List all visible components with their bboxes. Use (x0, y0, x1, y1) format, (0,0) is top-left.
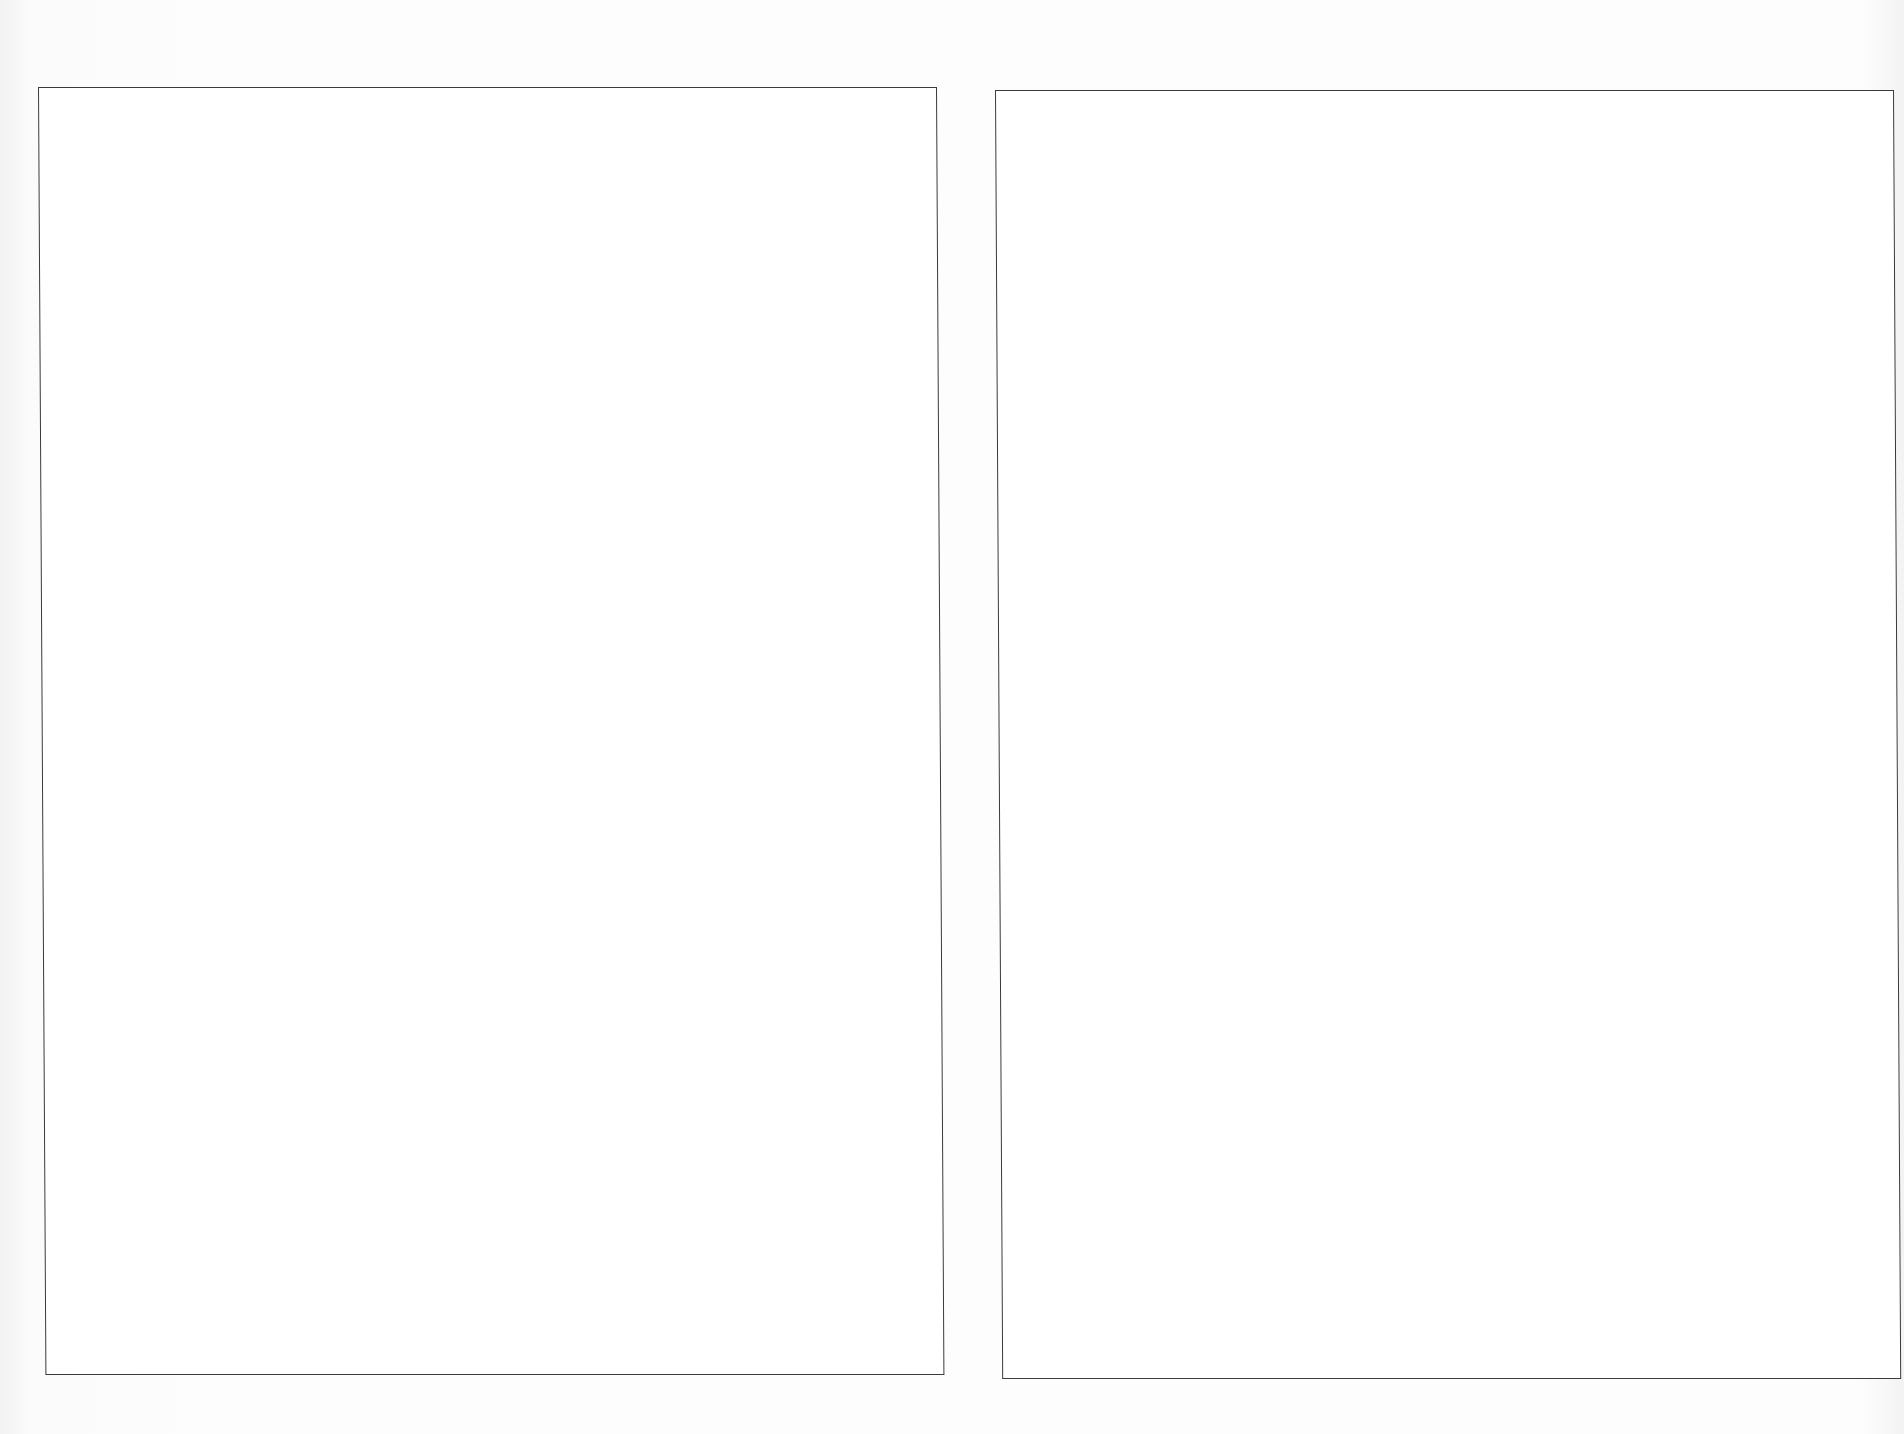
scanned-page (0, 0, 1904, 1434)
left-figure-frame (38, 87, 944, 1375)
right-figure-frame (995, 90, 1901, 1379)
